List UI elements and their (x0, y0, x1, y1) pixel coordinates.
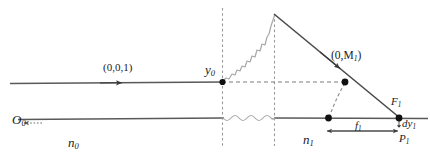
incoming-ray-line (10, 82, 224, 84)
optical-ray-diagram: (0,0,1) y0 O0 n0 n1 (0,M1) F1 f1 dy1 P1 (0, 0, 430, 162)
optical-system-wavy-lower (223, 116, 275, 121)
refractive-index-left-label: n0 (68, 136, 79, 151)
vertex-point-label: O0 (12, 113, 26, 128)
differential-height-subscript: 1 (412, 123, 416, 131)
focal-point-subscript: 1 (398, 101, 402, 109)
object-height-label: y0 (205, 63, 215, 78)
refractive-index-right-subscript: 1 (310, 138, 314, 148)
ray-point-open: (0,M (331, 49, 354, 61)
direction-vector-label: (0,0,1) (103, 62, 132, 73)
focal-point-symbol: F (391, 95, 398, 107)
vertex-point-symbol: O (12, 112, 21, 127)
optical-system-wavy-upper (223, 14, 275, 81)
focal-length-subscript: 1 (358, 125, 362, 133)
differential-height-symbol: dy (402, 117, 412, 129)
focal-arc (329, 83, 345, 117)
refractive-index-right-label: n1 (303, 133, 314, 148)
diagram-canvas (0, 0, 430, 162)
optical-axis-left (18, 118, 224, 120)
focal-point-label: F1 (391, 96, 401, 109)
ray-point-label: (0,M1) (331, 50, 361, 62)
focal-length-label: f1 (355, 120, 362, 133)
ray-point-close: ) (357, 49, 361, 61)
ray-height-point-dot (342, 79, 349, 86)
image-point-dot (325, 115, 332, 122)
image-point-symbol: P (399, 132, 406, 144)
image-point-label: P1 (399, 133, 409, 146)
vertex-point-subscript: 0 (21, 118, 25, 128)
object-height-subscript: 0 (211, 68, 215, 78)
object-point-dot (219, 79, 225, 85)
image-point-subscript: 1 (406, 138, 410, 146)
refractive-index-left-subscript: 0 (75, 141, 79, 151)
refracted-ray (274, 14, 400, 118)
differential-height-label: dy1 (402, 118, 416, 131)
